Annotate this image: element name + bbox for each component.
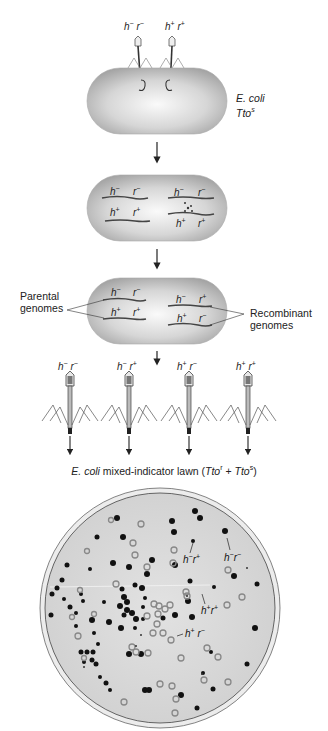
cell3-genome-label-2: r−	[133, 286, 140, 298]
plate-label-hplus-rminus: h+ r−	[185, 627, 205, 639]
progeny-label-3: h+ r−	[177, 360, 197, 372]
cell2-genome-label-7: h+	[176, 217, 186, 229]
lawn-caption: E. coli mixed-indicator lawn (Ttor + Tto…	[0, 464, 328, 477]
cell2-genome-label-3: h+	[110, 206, 120, 218]
progeny-phage-1	[42, 371, 98, 434]
cell2-genome-label-6: r−	[198, 186, 205, 198]
progeny-label-1: h− r−	[58, 360, 78, 372]
diagram-canvas	[0, 0, 328, 731]
cell2-genome-label-1: h−	[110, 185, 120, 197]
cell2-genome-label-8: r+	[198, 217, 205, 229]
plate-label-hminus-rplus: h−r+	[183, 553, 200, 565]
ecoli-cell-3	[87, 278, 227, 344]
ecoli-cell-1	[87, 68, 227, 134]
cell2-genome-label-4: r+	[133, 206, 140, 218]
petri-plate	[40, 488, 280, 728]
cell3-genome-label-5: h−	[176, 293, 186, 305]
cell3-genome-label-1: h−	[111, 286, 121, 298]
progeny-arrows	[70, 436, 248, 452]
phage-label-hminus-rminus: h− r−	[124, 20, 144, 32]
cell3-genome-label-6: r+	[199, 293, 206, 305]
cell2-genome-label-5: h−	[174, 186, 184, 198]
cell2-genome-label-2: r−	[133, 185, 140, 197]
cell3-genome-label-4: r+	[133, 306, 140, 318]
progeny-phage-4	[220, 371, 276, 434]
plate-label-hminus-rminus: h−r−	[224, 551, 241, 563]
ecoli-cell-2	[87, 175, 227, 241]
cell3-genome-label-7: h+	[177, 312, 187, 324]
host-label: E. coli Ttos	[236, 92, 265, 119]
plate-label-hplus-rplus: h+r+	[201, 604, 218, 616]
cell3-genome-label-8: r−	[199, 312, 206, 324]
progeny-phage-3	[161, 371, 217, 434]
cell3-genome-label-3: h+	[111, 306, 121, 318]
progeny-phage-2	[101, 371, 157, 434]
parental-genomes-label: Parental genomes	[20, 290, 63, 314]
recombinant-genomes-label: Recombinant genomes	[250, 307, 312, 331]
progeny-label-4: h+ r+	[236, 360, 256, 372]
phage-label-hplus-rplus: h+ r+	[165, 20, 185, 32]
progeny-label-2: h− r+	[117, 360, 137, 372]
